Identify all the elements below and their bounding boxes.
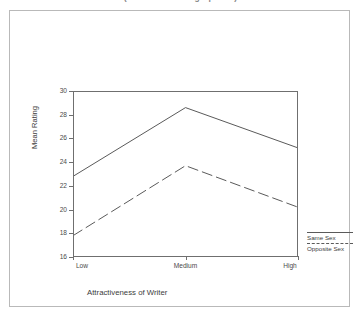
- y-tick-label: 18: [60, 229, 67, 236]
- legend-swatch-solid: [307, 232, 353, 233]
- legend-label: Same Sex: [307, 234, 361, 242]
- x-tick: [298, 257, 299, 260]
- x-tick: [186, 257, 187, 260]
- y-axis-title: Mean Rating: [30, 106, 39, 149]
- figure-caption: (Mean from 1-30 graphical): [0, 0, 361, 2]
- x-tick-label: High: [283, 262, 297, 269]
- figure-frame: Mean Rating Attractiveness of Writer 161…: [9, 10, 350, 307]
- plot-border: [73, 91, 298, 257]
- plot-area: 1618202224262830 LowMediumHigh: [73, 91, 298, 257]
- y-tick-label: 22: [60, 182, 67, 189]
- x-tick: [73, 257, 74, 260]
- legend-label: Opposite Sex: [307, 245, 361, 253]
- y-tick-label: 20: [60, 206, 67, 213]
- y-tick-label: 16: [60, 253, 67, 260]
- y-tick: [69, 138, 73, 139]
- y-tick-label: 26: [60, 134, 67, 141]
- y-tick: [69, 233, 73, 234]
- x-axis-title: Attractiveness of Writer: [87, 288, 167, 297]
- x-tick-label: Low: [76, 262, 88, 269]
- y-tick: [69, 186, 73, 187]
- y-tick: [69, 115, 73, 116]
- y-tick: [69, 210, 73, 211]
- x-tick-label: Medium: [174, 262, 197, 269]
- y-tick-label: 24: [60, 158, 67, 165]
- legend-item[interactable]: Same Sex: [307, 232, 361, 242]
- y-tick-label: 28: [60, 111, 67, 118]
- legend: Same SexOpposite Sex: [307, 232, 361, 254]
- y-tick-label: 30: [60, 87, 67, 94]
- y-tick: [69, 91, 73, 92]
- legend-swatch-dashed: [307, 243, 353, 244]
- y-tick: [69, 162, 73, 163]
- legend-item[interactable]: Opposite Sex: [307, 243, 361, 253]
